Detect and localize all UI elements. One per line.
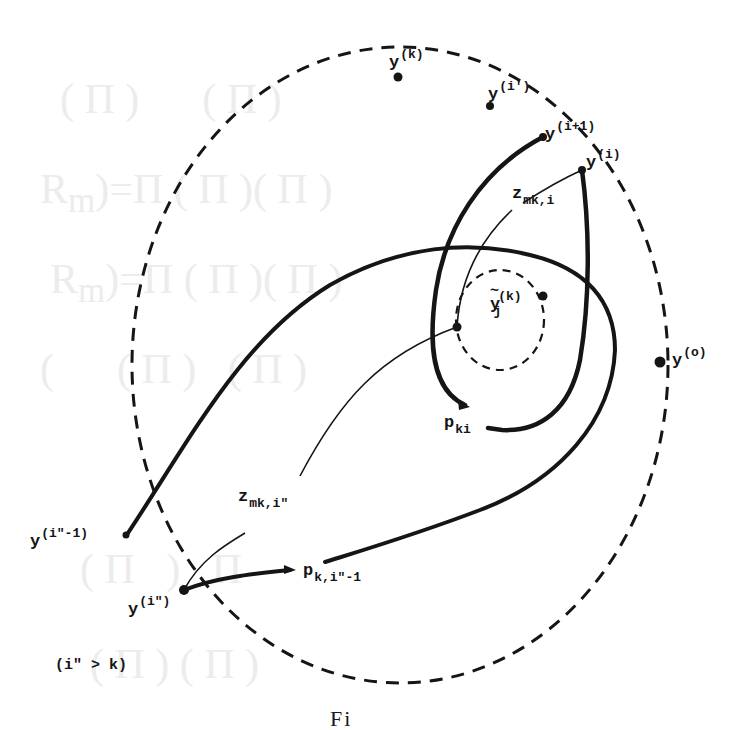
point-y-i2-minus-1 [123,532,130,539]
label-p-ki: pki [444,414,471,436]
point-y-o [655,357,666,368]
figure-caption: Fi [330,706,352,730]
label-z-mk-i2: zmk,i" [238,488,288,510]
point-y-i2 [179,585,189,595]
point-y-k [394,73,403,82]
label-y-o: y(o) [672,346,707,369]
label-p-k-i2-minus-1: pk,i"-1 [303,562,361,584]
label-z-mk-i: zmk,i [512,185,554,207]
point-inner-junction [453,323,462,332]
arrowhead-p-k-i2-minus-1 [284,565,296,574]
label-y-i-plus-1: y(i+1) [545,120,595,143]
path-from-y-i-plus-1 [432,137,543,405]
thin-path-z-mk-i2 [184,327,457,590]
label-y-i: y(i) [586,148,621,171]
label-y-k: y(k) [389,48,424,71]
inner-dashed-circle [456,270,544,370]
label-y-i-prime: y(i') [488,80,530,103]
label-y-tilde-j-k: y(k)j [490,290,501,318]
label-y-i2: y(i") [128,595,170,618]
label-y-i2-minus-1: y(i"-1) [30,527,88,550]
condition-note: (i" > k) [55,658,127,673]
arrowhead-p-ki-left [458,400,470,410]
point-y-tilde-j-k [539,292,548,301]
path-from-y-i2 [184,570,290,590]
point-y-i [578,166,586,174]
